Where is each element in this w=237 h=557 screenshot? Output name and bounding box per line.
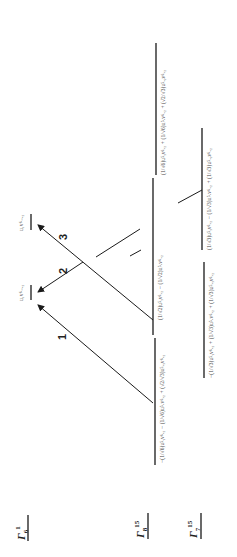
gamma6-state-label-1: u₁v⁶₋ₓ₂ xyxy=(18,214,24,231)
gamma7-state-label-1: (1/√3)u⁵ᵧv⁶ₓ₂ − (1/√3)u⁵ₓv⁶ₓ₂ + (1/√3)u⁵… xyxy=(206,148,212,250)
transition-2-label: 2 xyxy=(57,268,69,274)
gamma8-state-label-3: −(1/√6)u⁵ᵧv⁶ₓ₂ − (1/√6)u⁵ₓv⁶ₓ₂ + (√2/√3)… xyxy=(159,355,165,463)
transition-1-arrow xyxy=(38,305,153,403)
gamma8-state-label-2: (1/√2)u⁵ᵧv⁶ₓ₂ − (1/√2)u⁵ₓv⁶ₓ₂ xyxy=(157,255,163,320)
gamma-symbol: Γ xyxy=(15,533,27,540)
row-label-gamma7: Γ715 xyxy=(186,521,202,538)
gamma6-sub: 6 xyxy=(22,530,30,534)
row-label-gamma6: Γ61 xyxy=(14,526,30,540)
gamma-symbol: Γ xyxy=(134,531,146,538)
gamma7-sup: 15 xyxy=(186,521,194,528)
gamma7-state-label-2: −(1/√3)u⁵ᵧv⁶ₓ₂ + (1/√3)u⁵ₓv⁶ₓ₂ + (1/√3)u… xyxy=(208,273,214,378)
transition-2-arrow xyxy=(38,262,83,292)
transition-1-label: 1 xyxy=(56,334,68,340)
transition-3-arrow xyxy=(38,225,153,320)
gamma6-state-label-2: u₁v⁶₋ₓ₂ xyxy=(18,284,24,301)
connector-gamma7 xyxy=(178,190,202,203)
gamma7-sub: 7 xyxy=(194,528,202,532)
gamma-symbol: Γ xyxy=(187,531,199,538)
transition-3-label: 3 xyxy=(57,234,69,240)
gamma6-sup: 1 xyxy=(14,526,22,530)
gamma8-state-label-1: (1/√6)u⁵ᵧv⁶ₓ₂ + (1/√6)u⁵ₓv⁶ₓ₂ + (√2/√3)u… xyxy=(160,70,166,175)
energy-level-diagram xyxy=(0,0,237,557)
gamma8-sub: 8 xyxy=(141,528,149,532)
connector-gamma8-2 xyxy=(130,250,141,256)
row-label-gamma8: Γ815 xyxy=(133,521,149,538)
gamma8-sup: 15 xyxy=(133,521,141,528)
connector-gamma8-1 xyxy=(96,229,140,257)
